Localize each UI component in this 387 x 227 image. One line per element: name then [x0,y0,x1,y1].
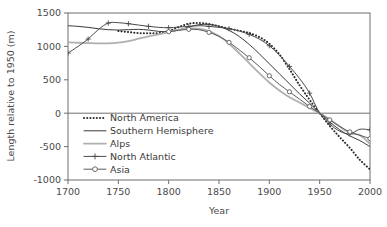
y-tick-label: -1000 [33,174,61,185]
x-tick-label: 1750 [106,186,130,197]
y-tick-label: -500 [39,141,61,152]
legend-label: Southern Hemisphere [110,125,214,136]
x-axis-title: Year [208,205,229,216]
legend-label: Asia [110,164,130,175]
x-tick-label: 1900 [257,186,281,197]
x-tick-label: 1800 [157,186,181,197]
x-tick-label: 1700 [56,186,80,197]
legend-label: Alps [110,138,130,149]
y-tick-label: 0 [55,108,61,119]
legend-label: North America [110,112,179,123]
y-tick-label: 1000 [37,41,61,52]
x-tick-label: 1850 [207,186,231,197]
chart-canvas: -1000-500050010001500 170017501800185019… [0,0,387,227]
y-tick-label: 1500 [37,7,61,18]
x-tick-label: 2000 [358,186,382,197]
legend-label: North Atlantic [110,151,176,162]
x-tick-label: 1950 [308,186,332,197]
y-axis-title: Length relative to 1950 (m) [5,30,16,161]
y-tick-label: 500 [43,74,61,85]
figure-container: -1000-500050010001500 170017501800185019… [0,0,387,227]
